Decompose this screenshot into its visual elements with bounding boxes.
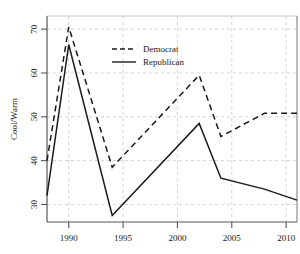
legend-label-democrat: Democrat: [143, 44, 179, 54]
x-tick-label: 2010: [277, 233, 296, 243]
x-tick-label: 1990: [60, 233, 79, 243]
y-axis-title: Cool/Warm: [9, 98, 19, 140]
y-tick-label: 50: [29, 112, 39, 122]
chart-container: 3040506070 19901995200020052010 Cool/War…: [0, 0, 300, 254]
x-tick-label: 1995: [114, 233, 133, 243]
x-tick-label: 2005: [223, 233, 242, 243]
y-tick-label: 30: [29, 199, 39, 209]
x-tick-label: 2000: [168, 233, 187, 243]
y-tick-label: 60: [29, 68, 39, 78]
y-tick-labels: 3040506070: [29, 24, 39, 209]
x-tick-labels: 19901995200020052010: [60, 233, 296, 243]
y-tick-label: 40: [29, 156, 39, 166]
line-chart: 3040506070 19901995200020052010 Cool/War…: [0, 0, 300, 254]
y-tick-label: 70: [29, 24, 39, 33]
legend-label-republican: Republican: [143, 57, 184, 67]
